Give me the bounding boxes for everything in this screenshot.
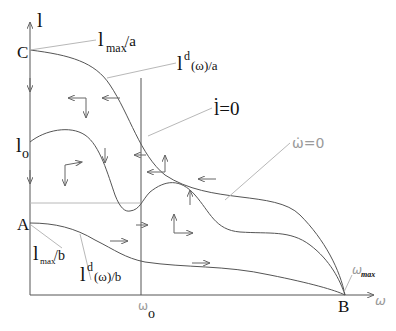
label-omega0: ω o — [138, 299, 155, 321]
svg-text:max: max — [361, 270, 375, 279]
svg-text:(ω)/a: (ω)/a — [191, 58, 218, 73]
svg-text:o: o — [148, 306, 155, 321]
label-l0: l o — [16, 134, 29, 161]
svg-text:d: d — [184, 49, 190, 63]
direction-arrows — [30, 78, 216, 263]
leader-omegamax — [344, 275, 352, 292]
svg-text:ω: ω — [138, 299, 148, 313]
label-ld-b: l d (ω)/b — [80, 260, 121, 285]
svg-text:l: l — [80, 263, 86, 285]
leader-omegadot — [225, 143, 290, 200]
leader-ldot — [148, 108, 212, 136]
svg-text:l: l — [177, 52, 183, 74]
point-a-label: A — [17, 215, 30, 234]
svg-text:l: l — [33, 242, 39, 264]
svg-text:(ω)/b: (ω)/b — [94, 269, 121, 284]
svg-text:l: l — [98, 28, 104, 50]
label-omega-dot-zero: ω̇=0 — [292, 135, 324, 151]
upper-boundary-curve — [30, 50, 345, 295]
svg-text:/b: /b — [54, 248, 65, 263]
svg-text:d: d — [87, 260, 93, 274]
lower-boundary-curve — [30, 223, 345, 295]
y-axis-label: l — [37, 9, 43, 31]
point-c-label: C — [17, 43, 28, 62]
x-axis-label: ω — [375, 293, 386, 308]
point-b-label: B — [338, 297, 349, 316]
label-l-dot-zero: l̇=0 — [214, 97, 240, 119]
label-ld-a: l d (ω)/a — [177, 49, 218, 74]
svg-text:o: o — [22, 146, 29, 161]
svg-text:/a: /a — [125, 33, 136, 49]
leader-ld-a — [107, 63, 176, 78]
label-omegamax: ω max — [352, 263, 375, 279]
phase-diagram: l ω — [0, 0, 396, 331]
label-lmax-a: l max /a — [98, 28, 136, 55]
label-lmax-b: l max /b — [33, 242, 65, 266]
svg-text:max: max — [106, 41, 127, 55]
leader-lmax-a — [30, 40, 96, 50]
